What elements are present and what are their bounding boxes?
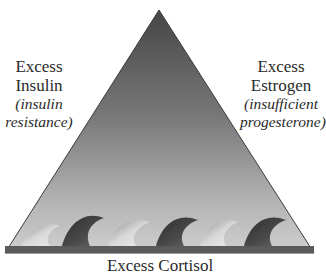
left-label-sub-2: resistance) <box>0 113 78 131</box>
left-label-sub-1: (insulin <box>0 95 78 113</box>
triangle-body <box>5 10 314 253</box>
bottom-label: Excess Cortisol <box>60 256 260 275</box>
right-label-title-1: Excess <box>240 57 322 76</box>
right-corner-label: Excess Estrogen (insufficient progestero… <box>240 57 322 131</box>
right-label-sub-1: (insufficient <box>240 95 322 113</box>
left-label-title-2: Insulin <box>0 76 78 95</box>
right-label-sub-2: progesterone) <box>240 113 322 131</box>
left-corner-label: Excess Insulin (insulin resistance) <box>0 57 78 131</box>
triangle-base-band <box>5 246 314 253</box>
left-label-title-1: Excess <box>0 57 78 76</box>
right-label-title-2: Estrogen <box>240 76 322 95</box>
